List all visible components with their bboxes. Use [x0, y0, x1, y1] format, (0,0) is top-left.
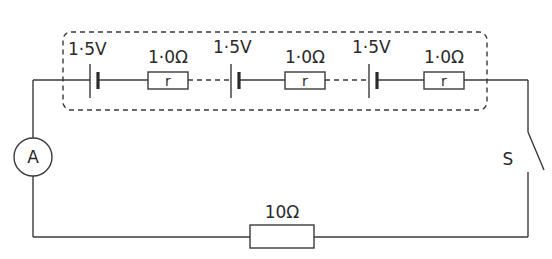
cell-emf-label: 1·5V [213, 37, 252, 57]
internal-resistance-label: 1·0Ω [424, 47, 464, 67]
internal-resistance-label: 1·0Ω [285, 47, 325, 67]
cell-3: 1·5V [352, 37, 391, 98]
cell-emf-label: 1·5V [352, 37, 391, 57]
switch-lever [528, 132, 544, 170]
internal-resistor-1: r 1·0Ω [148, 47, 188, 89]
ammeter: A [14, 138, 52, 176]
circuit-diagram: 1·5V r 1·0Ω 1·5V r 1·0Ω 1·5V r 1·0Ω A [0, 0, 552, 259]
resistor-symbol-label: r [302, 73, 308, 89]
resistor-symbol-label: r [165, 73, 171, 89]
internal-resistance-label: 1·0Ω [148, 47, 188, 67]
internal-resistor-3: r 1·0Ω [424, 47, 464, 89]
cell-2: 1·5V [213, 37, 252, 98]
ammeter-label: A [27, 147, 39, 167]
cell-emf-label: 1·5V [68, 39, 107, 59]
external-resistor-label: 10Ω [265, 202, 300, 222]
external-resistor: 10Ω [250, 202, 314, 248]
internal-resistor-2: r 1·0Ω [285, 47, 325, 89]
switch-label: S [503, 149, 514, 169]
battery-enclosure [63, 32, 487, 110]
resistor-symbol-label: r [441, 73, 447, 89]
cell-1: 1·5V [68, 39, 107, 98]
switch: S [503, 132, 544, 170]
